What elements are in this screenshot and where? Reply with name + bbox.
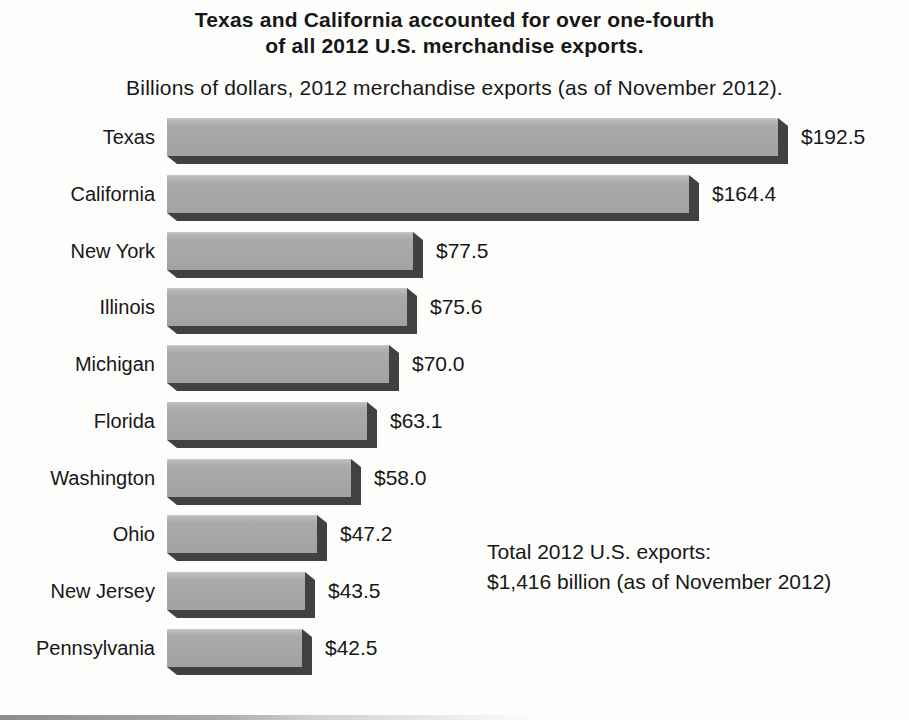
bar-face: [167, 572, 305, 610]
bar-row: Washington$58.0: [0, 459, 427, 505]
bar-value-label: $77.5: [436, 232, 489, 270]
bar-value-label: $192.5: [801, 118, 865, 156]
bar-category-label: Washington: [0, 459, 155, 497]
bar-face: [167, 118, 778, 156]
bar-value-label: $63.1: [390, 402, 443, 440]
bar-row: New York$77.5: [0, 232, 489, 278]
bar: [167, 288, 407, 326]
bar-category-label: Ohio: [0, 515, 155, 553]
bar-value-label: $58.0: [374, 459, 427, 497]
export-bar-chart-figure: Texas and California accounted for over …: [0, 0, 909, 720]
bar-category-label: Florida: [0, 402, 155, 440]
bar-category-label: California: [0, 175, 155, 213]
bar-face: [167, 515, 317, 553]
bar: [167, 459, 351, 497]
bar-row: Ohio$47.2: [0, 515, 393, 561]
total-exports-annotation-line1: Total 2012 U.S. exports:: [487, 540, 711, 563]
bar: [167, 232, 413, 270]
bar-row: Illinois$75.6: [0, 288, 483, 334]
bar-row: New Jersey$43.5: [0, 572, 381, 618]
bar-chart-plot-area: Texas$192.5California$164.4New York$77.5…: [0, 0, 909, 720]
bar: [167, 629, 302, 667]
bar-category-label: Michigan: [0, 345, 155, 383]
bar-row: Michigan$70.0: [0, 345, 465, 391]
bar: [167, 402, 367, 440]
bar-category-label: Texas: [0, 118, 155, 156]
total-exports-annotation-line2: $1,416 billion (as of November 2012): [487, 570, 831, 593]
bar-row: California$164.4: [0, 175, 776, 221]
bar-face: [167, 288, 407, 326]
bar: [167, 345, 389, 383]
bar-row: Florida$63.1: [0, 402, 443, 448]
bar-face: [167, 345, 389, 383]
page-edge-artifact: [0, 715, 535, 720]
bar-face: [167, 629, 302, 667]
bar-row: Texas$192.5: [0, 118, 865, 164]
bar-category-label: New Jersey: [0, 572, 155, 610]
bar-row: Pennsylvania$42.5: [0, 629, 378, 675]
bar: [167, 118, 778, 156]
bar-value-label: $75.6: [430, 288, 483, 326]
bar-value-label: $164.4: [712, 175, 776, 213]
bar-face: [167, 232, 413, 270]
bar-value-label: $42.5: [325, 629, 378, 667]
bar-value-label: $43.5: [328, 572, 381, 610]
bar-value-label: $47.2: [340, 515, 393, 553]
bar: [167, 515, 317, 553]
bar: [167, 175, 689, 213]
bar-category-label: Illinois: [0, 288, 155, 326]
bar-face: [167, 175, 689, 213]
bar-face: [167, 402, 367, 440]
bar-category-label: Pennsylvania: [0, 629, 155, 667]
bar-category-label: New York: [0, 232, 155, 270]
bar-value-label: $70.0: [412, 345, 465, 383]
bar-face: [167, 459, 351, 497]
total-exports-annotation: Total 2012 U.S. exports: $1,416 billion …: [487, 537, 831, 597]
bar: [167, 572, 305, 610]
